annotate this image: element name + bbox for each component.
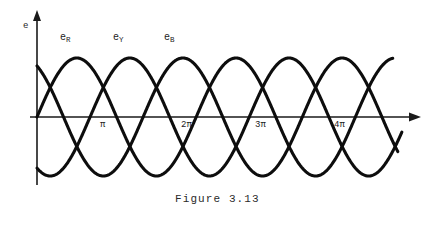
x-tick-label-4pi: 4π <box>334 121 345 130</box>
y-axis-label: e <box>23 22 28 31</box>
series-label-e-y-subscript: Y <box>119 36 124 44</box>
x-tick-label-2pi: 2π <box>181 121 192 130</box>
series-label-e-b-subscript: B <box>170 36 175 44</box>
y-axis-arrowhead <box>33 10 41 21</box>
x-tick-label-3pi: 3π <box>255 121 266 130</box>
figure-caption: Figure 3.13 <box>175 194 260 205</box>
series-label-e-r: eR <box>60 33 71 45</box>
series-label-e-r-subscript: R <box>66 36 71 44</box>
series-label-e-y: eY <box>113 33 124 45</box>
figure-container: e eR eY eB π 2π 3π 4π Figure 3.13 <box>0 0 429 227</box>
series-label-e-b: eB <box>164 33 175 45</box>
x-axis-arrowhead <box>409 113 421 122</box>
x-tick-label-pi: π <box>100 121 105 130</box>
